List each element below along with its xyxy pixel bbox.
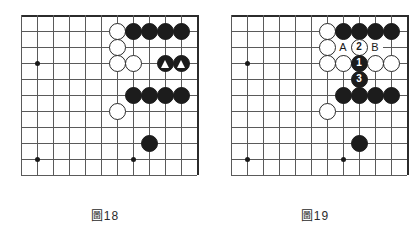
grid-line-vertical <box>85 15 86 175</box>
black-stone[interactable] <box>367 87 384 104</box>
white-stone[interactable] <box>109 55 126 72</box>
black-stone[interactable] <box>141 23 158 40</box>
grid-line-horizontal <box>21 159 197 160</box>
grid-line-horizontal <box>231 127 407 128</box>
grid-line-vertical <box>231 15 232 175</box>
black-stone[interactable] <box>351 87 368 104</box>
grid-line-horizontal <box>231 15 407 17</box>
black-stone[interactable] <box>383 87 400 104</box>
white-stone[interactable] <box>109 23 126 40</box>
black-stone[interactable] <box>125 23 142 40</box>
grid-line-horizontal <box>231 143 407 144</box>
figure-19: AB213 圖19 <box>210 0 420 238</box>
grid-line-horizontal <box>21 127 197 128</box>
grid-line-vertical <box>279 15 280 175</box>
point-label: B <box>367 39 383 55</box>
black-stone[interactable] <box>173 87 190 104</box>
star-point <box>341 157 346 162</box>
black-stone[interactable] <box>335 23 352 40</box>
star-point <box>245 61 250 66</box>
grid-line-horizontal <box>21 143 197 144</box>
black-stone[interactable] <box>335 87 352 104</box>
white-stone[interactable] <box>109 103 126 120</box>
white-stone[interactable] <box>319 39 336 56</box>
black-stone[interactable] <box>125 87 142 104</box>
grid-line-vertical <box>197 15 199 175</box>
black-stone[interactable] <box>351 23 368 40</box>
white-stone[interactable] <box>319 103 336 120</box>
grid-line-horizontal <box>231 79 407 80</box>
grid-line-vertical <box>37 15 38 175</box>
star-point <box>35 157 40 162</box>
grid-line-vertical <box>247 15 248 175</box>
white-stone[interactable] <box>335 55 352 72</box>
white-stone[interactable] <box>319 55 336 72</box>
grid-line-vertical <box>311 15 312 175</box>
figure-19-caption: 圖19 <box>210 206 420 223</box>
move-number: 1 <box>356 58 362 68</box>
black-stone[interactable]: 1 <box>351 55 368 72</box>
grid-line-horizontal <box>231 175 407 176</box>
black-stone[interactable] <box>157 55 174 72</box>
grid-line-vertical <box>407 15 409 175</box>
black-stone[interactable] <box>157 23 174 40</box>
black-stone[interactable] <box>173 23 190 40</box>
star-point <box>131 157 136 162</box>
move-number: 2 <box>356 42 362 52</box>
white-stone[interactable] <box>125 55 142 72</box>
black-stone[interactable] <box>173 55 190 72</box>
black-stone[interactable]: 3 <box>351 71 368 88</box>
black-stone[interactable] <box>367 23 384 40</box>
figure-18-caption: 圖18 <box>0 206 210 223</box>
white-stone[interactable]: 2 <box>351 39 368 56</box>
black-stone[interactable] <box>383 23 400 40</box>
figure-18: 圖18 <box>0 0 210 238</box>
grid-line-horizontal <box>231 159 407 160</box>
go-board-19[interactable]: AB213 <box>224 13 412 194</box>
black-stone[interactable] <box>141 87 158 104</box>
grid-line-horizontal <box>21 175 197 176</box>
grid-line-horizontal <box>21 79 197 80</box>
white-stone[interactable] <box>319 23 336 40</box>
white-stone[interactable] <box>367 55 384 72</box>
triangle-marker-icon <box>161 60 169 68</box>
grid-line-vertical <box>21 15 22 175</box>
grid-line-horizontal <box>21 15 197 17</box>
black-stone[interactable] <box>141 135 158 152</box>
star-point <box>35 61 40 66</box>
star-point <box>245 157 250 162</box>
go-diagram-pair: 圖18 AB213 圖19 <box>0 0 420 238</box>
black-stone[interactable] <box>157 87 174 104</box>
move-number: 3 <box>356 74 362 84</box>
grid-line-vertical <box>101 15 102 175</box>
white-stone[interactable] <box>109 39 126 56</box>
white-stone[interactable] <box>383 55 400 72</box>
grid-line-vertical <box>53 15 54 175</box>
grid-line-vertical <box>263 15 264 175</box>
grid-line-vertical <box>295 15 296 175</box>
point-label: A <box>335 39 351 55</box>
grid-line-vertical <box>69 15 70 175</box>
triangle-marker-icon <box>177 60 185 68</box>
go-board-18[interactable] <box>14 13 202 194</box>
black-stone[interactable] <box>351 135 368 152</box>
